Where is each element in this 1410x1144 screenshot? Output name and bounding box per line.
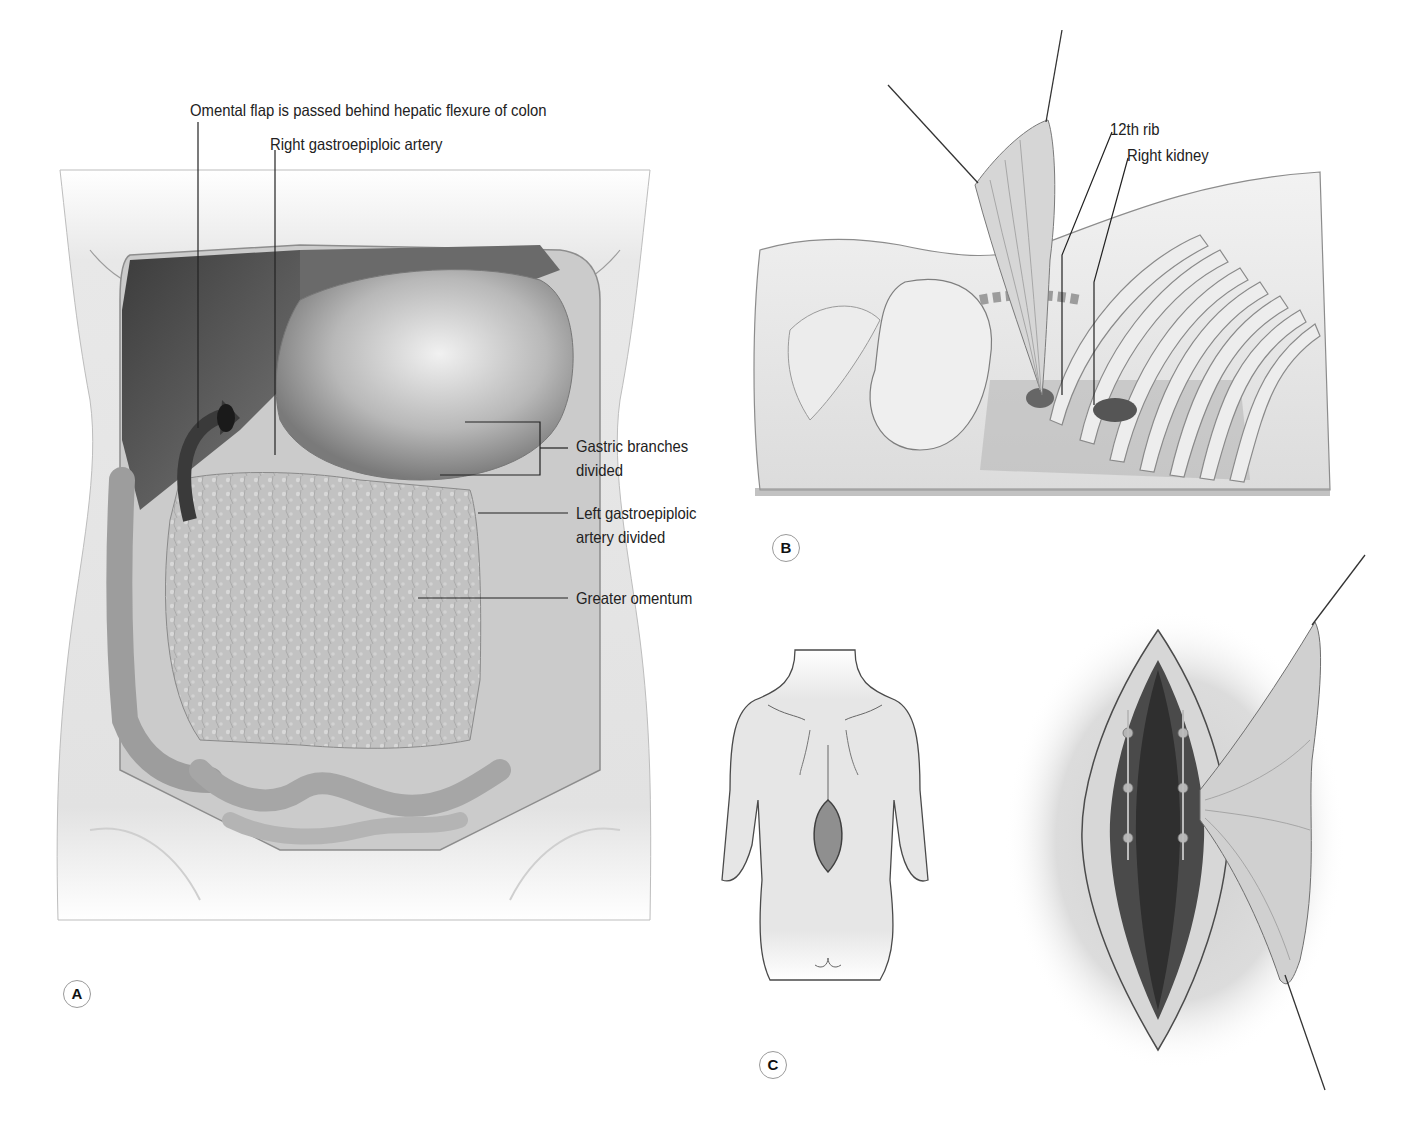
label-left-gastroepiploic-line2: artery divided [576, 526, 665, 548]
panel-badge-c: C [759, 1051, 787, 1079]
panel-a-illustration [0, 0, 1410, 1144]
label-greater-omentum: Greater omentum [576, 587, 692, 609]
label-gastric-branches-line2: divided [576, 459, 623, 481]
label-12th-rib: 12th rib [1110, 118, 1160, 140]
panel-badge-b: B [772, 534, 800, 562]
label-right-gastroepiploic-artery: Right gastroepiploic artery [270, 133, 443, 155]
label-gastric-branches-line1: Gastric branches [576, 435, 688, 457]
label-omental-flap: Omental flap is passed behind hepatic fl… [190, 99, 547, 121]
label-right-kidney: Right kidney [1127, 144, 1209, 166]
label-left-gastroepiploic-line1: Left gastroepiploic [576, 502, 697, 524]
panel-badge-a: A [63, 980, 91, 1008]
